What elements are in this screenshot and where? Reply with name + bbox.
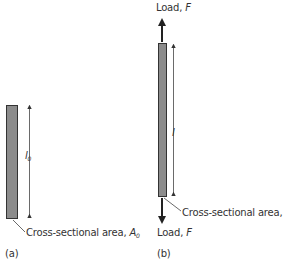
length-label-a: l0 — [25, 150, 31, 162]
length-label-b: l — [172, 127, 175, 138]
area-label-b: Cross-sectional area, A — [182, 207, 283, 218]
caption-b: (b) — [157, 248, 171, 259]
area-leader-line-b — [164, 198, 181, 211]
caption-a: (a) — [5, 248, 18, 259]
area-label-a: Cross-sectional area, A0 — [26, 227, 140, 239]
specimen-bar-a — [7, 106, 18, 219]
specimen-bar-b — [159, 44, 167, 197]
load-label-top: Load, F — [156, 2, 191, 13]
area-leader-line-a — [13, 220, 25, 232]
load-label-bottom: Load, F — [157, 227, 192, 238]
